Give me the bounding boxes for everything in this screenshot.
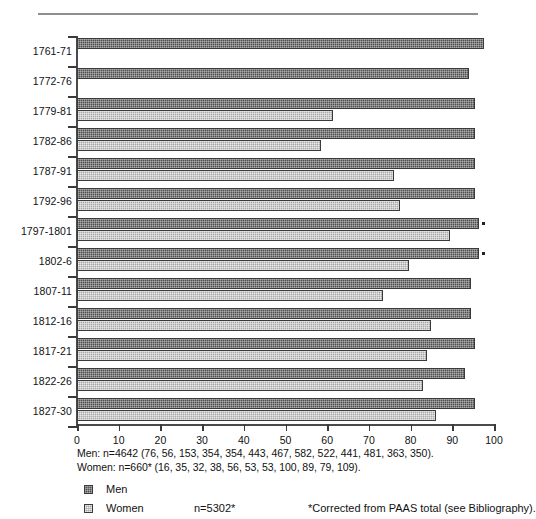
bar-men bbox=[77, 38, 484, 49]
x-axis-label: 40 bbox=[224, 434, 264, 446]
y-axis-tick bbox=[68, 366, 77, 368]
y-axis-tick bbox=[68, 276, 77, 278]
y-axis-label: 1827-30 bbox=[0, 405, 72, 417]
bar-men bbox=[77, 158, 475, 169]
bar-women bbox=[77, 260, 409, 271]
x-axis-tick bbox=[411, 424, 413, 431]
bar-women bbox=[77, 140, 321, 151]
legend-footnote: *Corrected from PAAS total (see Bibliogr… bbox=[308, 502, 536, 514]
x-axis-label: 0 bbox=[57, 434, 97, 446]
x-axis-label: 30 bbox=[182, 434, 222, 446]
y-axis-label: 1822-26 bbox=[0, 375, 72, 387]
x-axis-tick bbox=[202, 424, 204, 431]
bar-end-marker-icon bbox=[482, 222, 485, 225]
y-axis-tick bbox=[68, 426, 77, 428]
x-axis-tick bbox=[160, 424, 162, 431]
y-axis-label: 1817-21 bbox=[0, 345, 72, 357]
bar-men bbox=[77, 248, 479, 259]
bar-women bbox=[77, 320, 431, 331]
y-axis-label: 1779-81 bbox=[0, 105, 72, 117]
legend-label-men: Men bbox=[106, 483, 127, 495]
bar-men bbox=[77, 98, 475, 109]
bar-women bbox=[77, 230, 450, 241]
x-axis-label: 20 bbox=[140, 434, 180, 446]
x-axis-label: 100 bbox=[474, 434, 514, 446]
bar-chart: 1761-711772-761779-811782-861787-911792-… bbox=[0, 36, 512, 428]
y-axis-tick bbox=[68, 96, 77, 98]
y-axis-tick bbox=[68, 216, 77, 218]
y-axis-tick bbox=[68, 246, 77, 248]
bar-men bbox=[77, 308, 471, 319]
sample-size-notes: Men: n=4642 (76, 56, 153, 354, 354, 443,… bbox=[77, 447, 434, 474]
bar-men bbox=[77, 338, 475, 349]
y-axis-tick bbox=[68, 126, 77, 128]
legend-label-women: Women bbox=[106, 502, 144, 514]
bar-women bbox=[77, 380, 423, 391]
bar-women bbox=[77, 410, 436, 421]
bar-women bbox=[77, 110, 333, 121]
legend-swatch-women-icon bbox=[84, 504, 93, 513]
x-axis-tick bbox=[77, 424, 79, 431]
x-axis-tick bbox=[494, 424, 496, 431]
y-axis-label: 1812-16 bbox=[0, 315, 72, 327]
note-men: Men: n=4642 (76, 56, 153, 354, 354, 443,… bbox=[77, 447, 434, 461]
legend-total-count: n=5302* bbox=[194, 502, 235, 514]
legend-swatch-men-icon bbox=[84, 485, 93, 494]
x-axis-label: 60 bbox=[307, 434, 347, 446]
y-axis-label: 1802-6 bbox=[0, 255, 72, 267]
bar-women bbox=[77, 350, 427, 361]
y-axis-label: 1807-11 bbox=[0, 285, 72, 297]
bar-end-marker-icon bbox=[482, 252, 485, 255]
x-axis-tick bbox=[286, 424, 288, 431]
plot-area bbox=[77, 36, 494, 428]
y-axis-label: 1792-96 bbox=[0, 195, 72, 207]
y-axis-label: 1782-86 bbox=[0, 135, 72, 147]
bar-women bbox=[77, 290, 383, 301]
x-axis-tick bbox=[369, 424, 371, 431]
bar-men bbox=[77, 398, 475, 409]
header-divider bbox=[38, 13, 478, 15]
y-axis-tick bbox=[68, 156, 77, 158]
x-axis-tick bbox=[119, 424, 121, 431]
y-axis-label: 1797-1801 bbox=[0, 225, 72, 237]
x-axis-label: 50 bbox=[266, 434, 306, 446]
y-axis-tick bbox=[68, 396, 77, 398]
bar-men bbox=[77, 68, 469, 79]
y-axis-tick bbox=[68, 186, 77, 188]
bar-men bbox=[77, 278, 471, 289]
y-axis-tick bbox=[68, 66, 77, 68]
bar-men bbox=[77, 368, 465, 379]
x-axis-label: 70 bbox=[349, 434, 389, 446]
y-axis-label: 1761-71 bbox=[0, 45, 72, 57]
y-axis-tick bbox=[68, 306, 77, 308]
y-axis-label: 1772-76 bbox=[0, 75, 72, 87]
x-axis-tick bbox=[244, 424, 246, 431]
x-axis-label: 90 bbox=[432, 434, 472, 446]
x-axis-tick bbox=[452, 424, 454, 431]
x-axis-label: 10 bbox=[99, 434, 139, 446]
y-axis-label: 1787-91 bbox=[0, 165, 72, 177]
x-axis-tick bbox=[327, 424, 329, 431]
bar-men bbox=[77, 128, 475, 139]
y-axis-tick bbox=[68, 336, 77, 338]
bar-women bbox=[77, 170, 394, 181]
note-women: Women: n=660* (16, 35, 32, 38, 56, 53, 5… bbox=[77, 461, 434, 475]
bar-men bbox=[77, 188, 475, 199]
bar-women bbox=[77, 200, 400, 211]
bar-men bbox=[77, 218, 479, 229]
y-axis-tick bbox=[68, 36, 77, 38]
x-axis-label: 80 bbox=[391, 434, 431, 446]
